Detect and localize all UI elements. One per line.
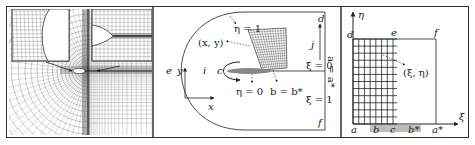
panel-c-computational-domain: η ξ d e f (ξ, η) a b c b* a* [347,9,465,135]
panel-b-physical-domain: η = 1 (x, y) d j ξ = 0 ξ = 1 f e y x i c… [166,12,337,130]
label-d-comp: d [347,29,353,40]
label-eta-axis: η [358,9,364,20]
mesh-line [252,38,288,40]
label-eta-0: η = 0 [236,86,263,97]
label-c-phys: c [217,65,223,76]
label-a-eq-astar: a = a* [326,56,337,88]
label-y-axis: y [176,65,183,76]
label-b: b [373,124,379,135]
label-xi-1: ξ = 1 [306,94,333,105]
label-c-comp: c [390,124,396,135]
label-j: j [309,39,314,50]
mesh-line [252,41,287,43]
label-point-xy: (x, y) [198,37,224,48]
trailing-edge-inset [92,9,152,61]
airfoil [227,68,271,74]
local-mesh-block [248,28,287,70]
label-a: a [351,124,357,135]
label-astar: a* [432,124,443,135]
label-f-comp: f [433,27,440,38]
figure-canvas: η = 1 (x, y) d j ξ = 0 ξ = 1 f e y x i c… [0,0,475,145]
label-eta-1: η = 1 [234,23,261,34]
leading-edge-inset [12,9,69,61]
airfoil-shape [73,68,85,73]
mesh-line [251,36,287,38]
label-x-axis: x [208,101,214,112]
label-e-phys: e [166,65,172,76]
label-point-xieta: (ξ, η) [403,67,429,78]
computational-grid [353,39,397,124]
label-d-phys: d [318,13,324,24]
label-xi-axis: ξ [459,111,465,122]
label-f-phys: f [317,117,324,128]
label-e-comp: e [391,27,397,38]
label-bstar: b* [408,124,419,135]
label-i: i [203,65,206,76]
label-b-eq-bstar: b = b* [270,86,303,97]
panel-a-mesh [0,0,170,145]
